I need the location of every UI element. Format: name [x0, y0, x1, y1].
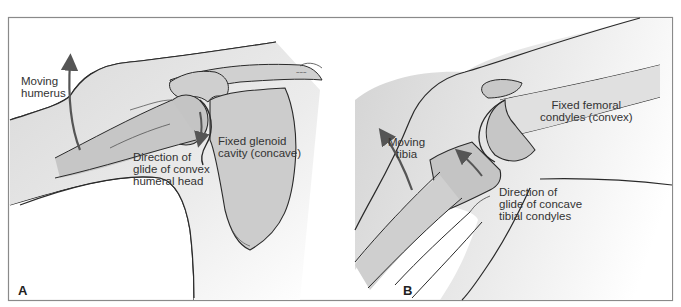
label-moving-humerus: Moving humerus [21, 75, 66, 99]
label-line: Moving [21, 75, 66, 87]
panel-letter-b: B [403, 283, 412, 298]
label-line: humeral head [133, 175, 210, 187]
label-line: cavity (concave) [218, 147, 301, 159]
label-line: Fixed glenoid [218, 135, 301, 147]
label-fixed-glenoid-cavity: Fixed glenoid cavity (concave) [218, 135, 301, 159]
label-moving-tibia: Moving tibia [388, 136, 425, 160]
label-fixed-femoral-condyles: Fixed femoral condyles (convex) [540, 99, 633, 123]
label-line: Direction of [133, 151, 210, 163]
label-direction-glide-humeral-head: Direction of glide of convex humeral hea… [133, 151, 210, 187]
label-line: glide of convex [133, 163, 210, 175]
label-line: condyles (convex) [540, 111, 633, 123]
panel-letter-a: A [18, 283, 27, 298]
label-line: tibia [388, 148, 425, 160]
label-line: humerus [21, 87, 66, 99]
label-line: Direction of [499, 186, 582, 198]
figure-illustration: ~~~ [0, 0, 681, 307]
svg-text:~~~: ~~~ [296, 69, 307, 75]
label-direction-glide-tibial-condyles: Direction of glide of concave tibial con… [499, 186, 582, 222]
label-line: tibial condyles [499, 210, 582, 222]
label-line: Moving [388, 136, 425, 148]
label-line: glide of concave [499, 198, 582, 210]
label-line: Fixed femoral [540, 99, 633, 111]
arthrokinematics-figure: ~~~ [0, 0, 681, 307]
